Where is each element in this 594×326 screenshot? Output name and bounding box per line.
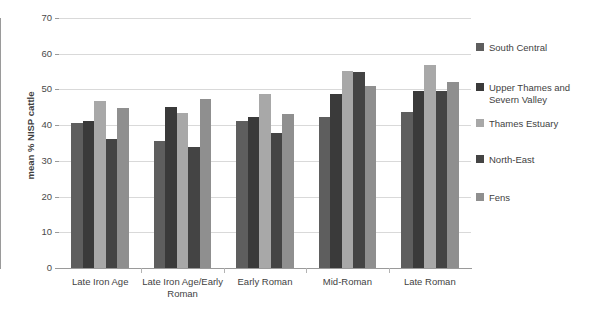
legend-swatch-icon <box>476 155 484 163</box>
bar <box>188 147 200 268</box>
bar <box>436 91 448 268</box>
bar <box>259 94 271 268</box>
legend-swatch-icon <box>476 119 484 127</box>
bar-group <box>319 18 377 268</box>
legend-item[interactable]: Thames Estuary <box>476 118 558 130</box>
bar <box>401 112 413 268</box>
bar <box>271 133 283 268</box>
bar <box>106 139 118 268</box>
bar-group <box>236 18 294 268</box>
x-axis-line <box>59 268 472 269</box>
bar <box>248 117 260 268</box>
bar <box>353 72 365 268</box>
bar <box>165 107 177 268</box>
bar <box>83 121 95 269</box>
bar <box>413 91 425 268</box>
bar <box>330 94 342 268</box>
x-axis-category-label: Late Iron Age/Early Roman <box>141 276 223 299</box>
bar <box>342 71 354 268</box>
legend-label: Thames Estuary <box>489 118 558 130</box>
x-axis-category-label: Early Roman <box>224 276 306 288</box>
bar-group <box>401 18 459 268</box>
bar <box>177 113 189 268</box>
category-separator <box>389 268 390 273</box>
bar-group <box>71 18 129 268</box>
legend-swatch-icon <box>476 43 484 51</box>
y-axis-tick-label: 50 <box>22 84 52 94</box>
bar <box>282 114 294 268</box>
bar <box>154 141 166 268</box>
legend-item[interactable]: Fens <box>476 192 510 204</box>
legend-item[interactable]: Upper Thames and Severn Valley <box>476 82 594 105</box>
bar <box>71 123 83 268</box>
bar-chart: mean % NISP cattle 706050403020100 Late … <box>0 0 594 326</box>
y-axis-tick-label: 10 <box>22 227 52 237</box>
y-axis-tick-label: 20 <box>22 192 52 202</box>
y-axis-tick-label: 40 <box>22 120 52 130</box>
bar <box>447 82 459 268</box>
bar-group <box>154 18 212 268</box>
legend-label: South Central <box>489 42 547 54</box>
y-axis-tick-label: 70 <box>22 13 52 23</box>
bar <box>365 86 377 269</box>
y-axis-title-label: mean % NISP cattle <box>25 61 36 211</box>
plot-area <box>59 18 471 268</box>
bar <box>424 65 436 268</box>
bar <box>200 99 212 268</box>
y-axis-line <box>0 18 1 269</box>
bar <box>117 108 129 268</box>
y-axis-tick-label: 0 <box>22 263 52 273</box>
y-axis-tick-label: 60 <box>22 49 52 59</box>
x-axis-category-label: Late Iron Age <box>59 276 141 288</box>
category-separator <box>224 268 225 273</box>
legend-label: Fens <box>489 192 510 204</box>
x-axis-category-label: Mid-Roman <box>306 276 388 288</box>
legend-swatch-icon <box>476 83 484 91</box>
legend-item[interactable]: North-East <box>476 154 534 166</box>
bar <box>236 121 248 269</box>
x-axis-category-label: Late Roman <box>389 276 471 288</box>
legend-label: Upper Thames and Severn Valley <box>489 82 594 105</box>
legend-swatch-icon <box>476 193 484 201</box>
y-axis-tick-label: 30 <box>22 156 52 166</box>
legend-label: North-East <box>489 154 534 166</box>
category-separator <box>141 268 142 273</box>
bar <box>319 117 331 268</box>
legend-item[interactable]: South Central <box>476 42 547 54</box>
category-separator <box>306 268 307 273</box>
bar <box>94 101 106 268</box>
